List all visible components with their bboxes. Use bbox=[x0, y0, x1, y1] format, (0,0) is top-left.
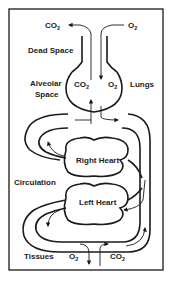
label-tissues: Tissues bbox=[24, 252, 54, 261]
label-space: Space bbox=[35, 90, 59, 99]
label-tissue-o2: O2 bbox=[69, 252, 78, 262]
label-o2-inhaled: O2 bbox=[128, 21, 137, 31]
airway-left-wall bbox=[72, 36, 82, 72]
label-lungs: Lungs bbox=[130, 80, 155, 89]
label-dead-space: Dead Space bbox=[28, 46, 74, 55]
o2-to-tissue-arrow bbox=[80, 244, 89, 264]
label-co2-exhaled: CO2 bbox=[45, 21, 60, 31]
label-alveolar: Alveolar bbox=[30, 79, 62, 88]
label-left-heart: Left Heart bbox=[79, 198, 117, 207]
respiration-diagram: CO2 O2 Dead Space Alveolar Space CO2 O2 … bbox=[0, 0, 170, 286]
label-tissue-co2: CO2 bbox=[110, 252, 125, 262]
co2-from-tissue-arrow bbox=[100, 244, 108, 266]
airway-right-wall bbox=[107, 36, 117, 72]
alveolus bbox=[66, 72, 122, 112]
label-alveolar-o2: O2 bbox=[108, 80, 117, 90]
o2-inhale-arrow bbox=[101, 25, 124, 79]
label-alveolar-co2: CO2 bbox=[74, 80, 89, 90]
label-right-heart: Right Heart bbox=[76, 156, 119, 165]
label-circulation: Circulation bbox=[14, 178, 56, 187]
